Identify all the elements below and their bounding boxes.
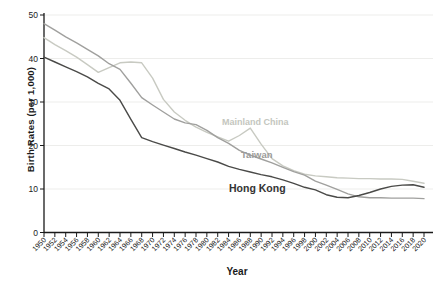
line-chart-plot-area: 0102030405019501952195419561958196019621… [0, 0, 441, 286]
series-line-mainland-china [44, 38, 424, 184]
series-label-taiwan: Taiwan [241, 149, 273, 160]
y-tick-label-50: 50 [29, 10, 39, 20]
series-label-mainland-china: Mainland China [222, 117, 289, 127]
series-line-hong-kong [44, 57, 424, 198]
y-tick-label-0: 0 [33, 228, 38, 238]
x-axis-title: Year [44, 266, 430, 277]
birth-rates-line-chart: 0102030405019501952195419561958196019621… [0, 0, 441, 286]
series-line-taiwan [44, 24, 424, 199]
series-label-hong-kong: Hong Kong [229, 182, 286, 194]
y-axis-title: Birth Rates (per 1,000) [25, 50, 36, 190]
